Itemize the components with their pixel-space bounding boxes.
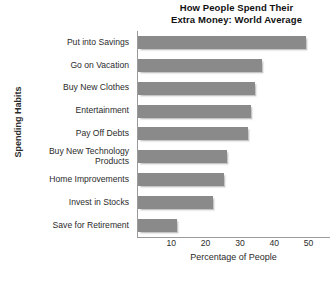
- category-label-line: Put into Savings: [0, 38, 129, 48]
- bar: [138, 127, 248, 140]
- category-label: Pay Off Debts: [0, 129, 129, 139]
- category-label: Put into Savings: [0, 38, 129, 48]
- category-label: Entertainment: [0, 106, 129, 116]
- chart-title: How People Spend Their Extra Money: Worl…: [137, 2, 336, 25]
- category-label-line: Go on Vacation: [0, 61, 129, 71]
- bar: [138, 105, 251, 118]
- x-tick-label: 50: [296, 238, 322, 248]
- x-axis-ticks: 1020304050: [137, 238, 336, 252]
- category-label: Buy New TechnologyProducts: [0, 147, 129, 166]
- chart-title-line-2: Extra Money: World Average: [137, 14, 336, 26]
- category-label-line: Entertainment: [0, 106, 129, 116]
- bar-row: [138, 145, 336, 168]
- category-label-line: Pay Off Debts: [0, 129, 129, 139]
- category-label: Go on Vacation: [0, 61, 129, 71]
- category-label: Save for Retirement: [0, 221, 129, 231]
- category-label: Invest in Stocks: [0, 198, 129, 208]
- category-label-line: Save for Retirement: [0, 221, 129, 231]
- category-axis-labels: Put into SavingsGo on VacationBuy New Cl…: [0, 31, 133, 237]
- bar: [138, 59, 262, 72]
- bar: [138, 219, 177, 232]
- bar-row: [138, 54, 336, 77]
- category-label-line: Buy New Clothes: [0, 83, 129, 93]
- bar-row: [138, 214, 336, 237]
- bar: [138, 196, 213, 209]
- bar-row: [138, 168, 336, 191]
- bar: [138, 173, 224, 186]
- bar-row: [138, 100, 336, 123]
- bar: [138, 82, 255, 95]
- bar: [138, 150, 227, 163]
- chart-title-line-1: How People Spend Their: [137, 2, 336, 14]
- category-label-line: Home Improvements: [0, 175, 129, 185]
- bar-row: [138, 31, 336, 54]
- x-tick-label: 40: [261, 238, 287, 248]
- x-tick-label: 10: [158, 238, 184, 248]
- category-label-line: Products: [0, 157, 129, 167]
- x-tick-label: 30: [227, 238, 253, 248]
- bar: [138, 36, 306, 49]
- x-tick-label: 20: [193, 238, 219, 248]
- bar-rows: [138, 31, 336, 237]
- plot-area: [137, 31, 336, 237]
- bar-row: [138, 77, 336, 100]
- bar-row: [138, 123, 336, 146]
- bar-chart: How People Spend Their Extra Money: Worl…: [0, 0, 336, 283]
- category-label: Home Improvements: [0, 175, 129, 185]
- bar-row: [138, 191, 336, 214]
- category-label: Buy New Clothes: [0, 83, 129, 93]
- x-axis-title: Percentage of People: [137, 252, 330, 262]
- category-label-line: Invest in Stocks: [0, 198, 129, 208]
